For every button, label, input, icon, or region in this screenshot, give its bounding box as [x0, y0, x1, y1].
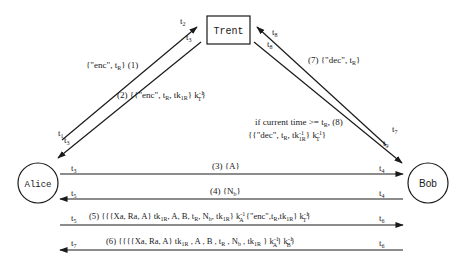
- time-t3: t3: [71, 163, 77, 174]
- message-6-label: (6) {{{{Xa, Ra, A} tk1R , A , B , tR , N…: [106, 236, 295, 248]
- time-t5-a: t5: [71, 188, 77, 199]
- arrow-msg7: [257, 27, 386, 145]
- message-8-label: {{"dec", tR, tk-11R} k-1T }: [248, 130, 326, 142]
- arrow-msg1: [62, 27, 197, 140]
- message-2-label: (2) {{"enc", tR, tk1R} k-1T}: [117, 90, 206, 102]
- time-t7: t7: [392, 124, 398, 135]
- trent-node: Trent: [207, 16, 250, 44]
- message-4-label: (4) {Nb}: [210, 186, 241, 197]
- alice-label: Alice: [24, 180, 51, 190]
- time-t2: t2: [180, 16, 186, 27]
- time-t4-b: t4: [379, 188, 385, 199]
- time-t1: t1: [58, 128, 64, 139]
- message-1-label: {"enc", tR} (1): [86, 60, 138, 71]
- time-t6-a: t6: [379, 213, 385, 224]
- message-7-label: (7) {"dec", tR}: [308, 55, 360, 66]
- protocol-diagram: Trent Alice Bob t2 t3 t1 t3 t8 t8 t7 t9 …: [0, 0, 462, 266]
- bob-label: Bob: [419, 178, 437, 189]
- time-t7-b: t7: [71, 238, 77, 249]
- time-t8-upper: t8: [272, 27, 278, 38]
- message-8-condition: if current time >= tR, (8): [255, 117, 343, 128]
- bob-node: Bob: [408, 163, 448, 203]
- alice-node: Alice: [18, 163, 58, 203]
- message-3-label: (3) {A}: [212, 161, 240, 171]
- message-5-label: (5) {{{Xa, Ra, A} tk1R, A, B, tR, Nb, tk…: [89, 211, 311, 223]
- trent-label: Trent: [213, 26, 243, 37]
- time-t4-a: t4: [379, 163, 385, 174]
- time-t5-b: t5: [71, 213, 77, 224]
- time-t6-b: t6: [379, 238, 385, 249]
- time-t9: t9: [383, 138, 389, 149]
